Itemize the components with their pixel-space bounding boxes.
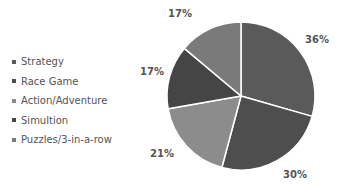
- data-label: 36%: [305, 34, 329, 45]
- data-label: 17%: [140, 66, 164, 77]
- data-label: 17%: [168, 8, 192, 19]
- data-label: 30%: [283, 169, 307, 180]
- data-label: 21%: [150, 148, 174, 159]
- pie-chart: 36%30%21%17%17%: [0, 0, 339, 184]
